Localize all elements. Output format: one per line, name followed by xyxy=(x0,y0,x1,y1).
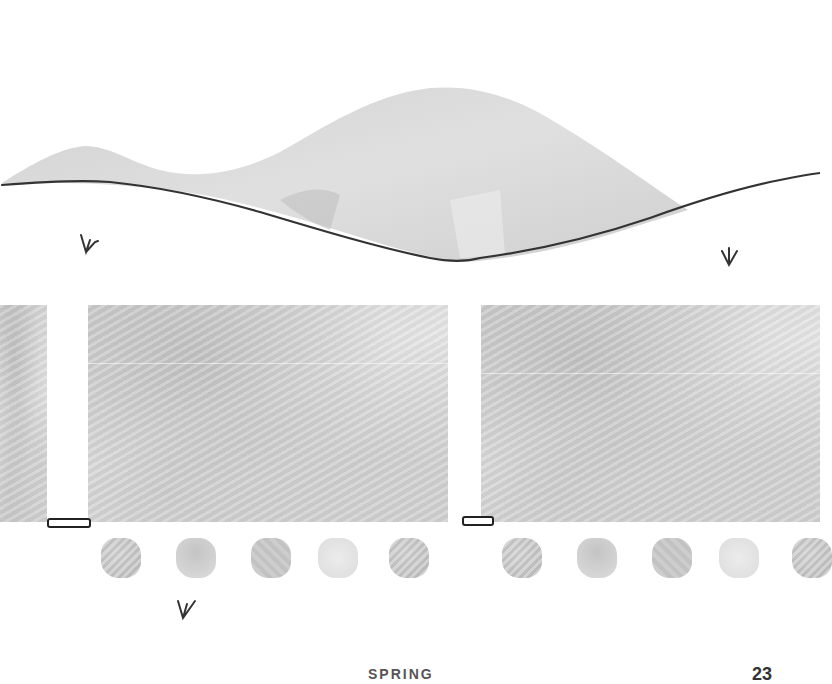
panel-seam xyxy=(88,363,448,364)
tab-marker-left xyxy=(47,518,91,528)
swatch-left-5 xyxy=(389,538,429,578)
arrow-mark-left-icon xyxy=(78,232,100,256)
swatch-right-2 xyxy=(577,538,617,578)
swatch-right-1 xyxy=(502,538,542,578)
swatch-right-4 xyxy=(719,538,759,578)
hills-illustration xyxy=(0,0,820,300)
swatch-right-5 xyxy=(792,538,832,578)
swatch-right-3 xyxy=(652,538,692,578)
panel-left-main xyxy=(88,305,448,522)
swatch-left-1 xyxy=(101,538,141,578)
page-number: 23 xyxy=(752,664,772,684)
arrow-mark-right-icon xyxy=(720,245,742,269)
panel-seam xyxy=(481,373,820,374)
arrow-mark-bottom-icon xyxy=(176,597,198,621)
swatch-left-2 xyxy=(176,538,216,578)
swatch-left-3 xyxy=(251,538,291,578)
footer-title: SPRING xyxy=(368,666,434,682)
panel-left-edge xyxy=(0,305,47,522)
panel-right-main xyxy=(481,305,820,522)
tab-marker-right xyxy=(462,516,494,526)
swatch-left-4 xyxy=(318,538,358,578)
hill-shape xyxy=(2,87,688,262)
